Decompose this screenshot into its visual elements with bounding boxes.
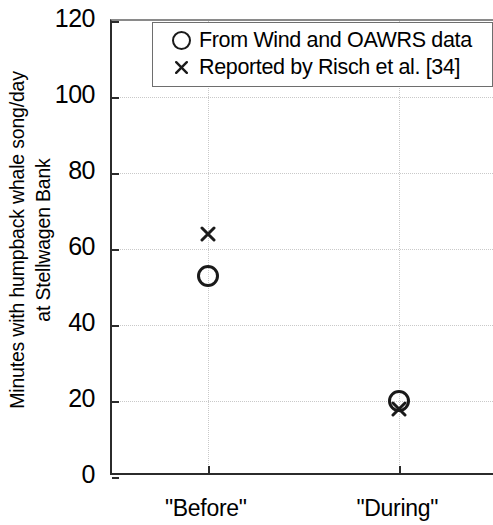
y-tick-mark — [112, 477, 119, 479]
chart-legend: From Wind and OAWRS data Reported by Ris… — [152, 22, 493, 87]
y-tick-label: 80 — [15, 158, 95, 183]
gridline-horizontal — [112, 173, 493, 174]
y-tick-mark — [112, 249, 119, 251]
y-tick-mark — [112, 401, 119, 403]
y-tick-label: 100 — [15, 82, 95, 107]
plot-area — [110, 19, 493, 475]
gridline-horizontal — [112, 97, 493, 98]
gridline-horizontal — [112, 325, 493, 326]
y-tick-mark — [112, 173, 119, 175]
y-tick-mark — [112, 325, 119, 327]
y-tick-mark — [112, 21, 119, 23]
legend-label-risch: Reported by Risch et al. [34] — [199, 56, 460, 79]
legend-entry-risch: Reported by Risch et al. [34] — [153, 54, 492, 81]
circle-open-marker-icon — [163, 31, 199, 50]
x-tick-mark — [208, 466, 210, 473]
y-tick-mark — [112, 97, 119, 99]
x-marker-icon — [163, 61, 199, 74]
legend-entry-oawrs: From Wind and OAWRS data — [153, 27, 492, 54]
data-point-x-marker — [200, 226, 216, 242]
gridline-vertical — [208, 21, 209, 473]
y-tick-label: 40 — [15, 310, 95, 335]
data-point-circle-marker — [197, 265, 219, 287]
gridline-horizontal — [112, 249, 493, 250]
y-tick-label: 120 — [15, 6, 95, 31]
x-tick-mark — [399, 466, 401, 473]
y-tick-label: 60 — [15, 234, 95, 259]
y-tick-label: 0 — [15, 462, 95, 487]
x-tick-label: "During" — [356, 497, 438, 520]
legend-label-oawrs: From Wind and OAWRS data — [199, 29, 472, 52]
x-tick-label: "Before" — [165, 497, 247, 520]
data-point-x-marker — [391, 401, 407, 417]
chart-figure: Minutes with humpback whale song/day at … — [0, 0, 493, 525]
y-tick-label: 20 — [15, 386, 95, 411]
gridline-horizontal — [112, 401, 493, 402]
